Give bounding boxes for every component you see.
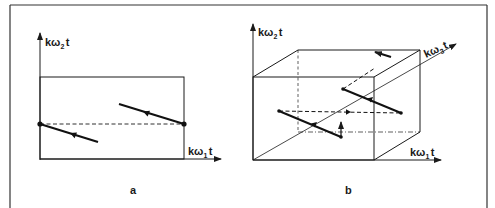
cube-front-face <box>253 77 374 160</box>
z-axis-label: kω3t <box>422 38 450 61</box>
cube-back-edges <box>298 50 420 132</box>
dashed-jump-diagonal <box>343 68 375 89</box>
endpoint-dot <box>399 111 403 115</box>
figure-two-panel-trajectory-diagram: kω2t kω1t a <box>0 0 495 208</box>
panel-caption-a: a <box>130 184 137 196</box>
trajectory-segment-2 <box>343 89 401 113</box>
x-axis-label: kω1t <box>188 145 213 159</box>
cube-edge <box>253 50 298 77</box>
panel-caption-b: b <box>345 184 352 196</box>
trajectory-segment-upper <box>119 104 184 124</box>
outer-frame <box>10 5 487 208</box>
trajectory-segment-lower <box>40 124 98 142</box>
z-axis <box>253 44 456 160</box>
endpoint-dot <box>341 87 345 91</box>
endpoint-dot <box>37 121 42 126</box>
panel-a: kω2t kω1t a <box>37 33 221 196</box>
panel-b: kω2t kω1t kω3t b <box>253 24 456 196</box>
trajectory-segment-3 <box>375 52 391 57</box>
y-axis-label: kω2t <box>258 26 283 40</box>
endpoint-dot <box>277 109 281 113</box>
y-axis-label: kω2t <box>45 36 70 50</box>
dashed-jump-horizontal <box>279 111 401 113</box>
direction-arrow-icon <box>346 109 351 115</box>
endpoint-dot <box>181 121 186 126</box>
x-axis-label: kω1t <box>410 146 435 160</box>
endpoint-dot <box>339 135 343 139</box>
